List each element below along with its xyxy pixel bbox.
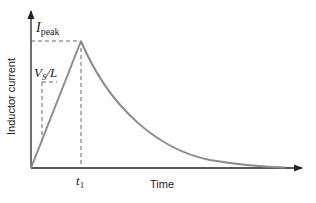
peak-label: Ipeak (35, 20, 60, 37)
y-axis-label: Inductor current (5, 58, 17, 135)
x-axis-label: Time (150, 178, 174, 190)
slope-label: VS/L (34, 65, 57, 82)
current-decay-curve (81, 41, 285, 168)
t1-label: t1 (76, 173, 84, 190)
inductor-current-diagram: Ipeak VS/L t1 Time Inductor current (0, 0, 316, 203)
current-rise-curve (31, 41, 81, 168)
